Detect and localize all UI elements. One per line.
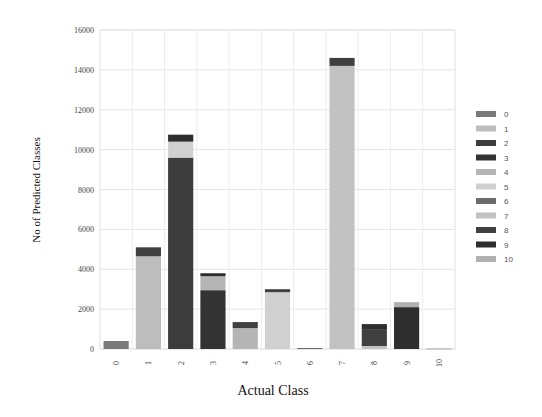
bar-segment xyxy=(297,348,322,349)
y-tick-label: 2000 xyxy=(78,305,94,314)
y-axis-label: No of Predicted Classes xyxy=(30,137,42,242)
bar-segment xyxy=(265,289,290,292)
legend-item: 2 xyxy=(476,139,509,148)
legend-label: 8 xyxy=(504,226,509,235)
bar-segment xyxy=(200,290,225,349)
legend-swatch xyxy=(476,169,496,175)
legend-label: 3 xyxy=(504,154,509,163)
bar-stack-3 xyxy=(200,273,225,349)
legend-item: 1 xyxy=(476,125,509,134)
legend-swatch xyxy=(476,140,496,146)
x-tick-label: 8 xyxy=(370,361,379,365)
legend-label: 9 xyxy=(504,241,509,250)
bar-segment xyxy=(136,256,161,349)
bar-stack-8 xyxy=(362,324,387,349)
bar-segment xyxy=(104,341,129,349)
bar-segment xyxy=(362,324,387,329)
x-tick-label: 0 xyxy=(112,361,121,365)
legend-label: 7 xyxy=(504,212,509,221)
legend-swatch xyxy=(476,242,496,248)
x-tick-label: 10 xyxy=(435,359,444,367)
bar-segment xyxy=(265,292,290,349)
bar-segment xyxy=(200,276,225,290)
y-tick-label: 4000 xyxy=(78,265,94,274)
legend-label: 6 xyxy=(504,197,509,206)
legend-item: 5 xyxy=(476,183,509,192)
y-tick-label: 10000 xyxy=(74,146,94,155)
stacked-bar-chart: 0200040006000800010000120001400016000 01… xyxy=(0,0,542,417)
bar-stack-0 xyxy=(104,341,129,349)
y-tick-label: 12000 xyxy=(74,106,94,115)
legend-swatch xyxy=(476,256,496,262)
legend-swatch xyxy=(476,198,496,204)
x-axis-ticks: 012345678910 xyxy=(112,359,444,367)
legend-swatch xyxy=(476,111,496,117)
bar-segment xyxy=(168,135,193,142)
y-tick-label: 6000 xyxy=(78,225,94,234)
bar-segment xyxy=(233,322,258,328)
x-tick-label: 7 xyxy=(338,361,347,365)
x-tick-label: 5 xyxy=(274,361,283,365)
legend: 012345678910 xyxy=(476,110,513,264)
bar-segment xyxy=(168,142,193,158)
bar-stack-10 xyxy=(426,348,451,349)
bar-segment xyxy=(136,247,161,256)
x-tick-label: 1 xyxy=(144,361,153,365)
legend-swatch xyxy=(476,126,496,132)
bar-stack-5 xyxy=(265,289,290,349)
legend-item: 8 xyxy=(476,226,509,235)
x-tick-label: 2 xyxy=(177,361,186,365)
y-tick-label: 8000 xyxy=(78,186,94,195)
x-tick-label: 9 xyxy=(403,361,412,365)
x-tick-label: 6 xyxy=(306,361,315,365)
bar-stack-7 xyxy=(329,58,354,349)
legend-label: 2 xyxy=(504,139,509,148)
bar-segment xyxy=(200,273,225,276)
x-tick-label: 4 xyxy=(241,361,250,365)
bar-stack-2 xyxy=(168,135,193,349)
bar-stack-1 xyxy=(136,247,161,349)
legend-item: 7 xyxy=(476,212,509,221)
legend-item: 6 xyxy=(476,197,509,206)
legend-label: 10 xyxy=(504,255,513,264)
bar-segment xyxy=(426,348,451,349)
legend-item: 9 xyxy=(476,241,509,250)
bar-segment xyxy=(329,66,354,349)
legend-swatch xyxy=(476,227,496,233)
x-tick-label: 3 xyxy=(209,361,218,365)
bar-segment xyxy=(394,302,419,307)
legend-item: 3 xyxy=(476,154,509,163)
bar-stack-9 xyxy=(394,302,419,349)
y-tick-label: 0 xyxy=(90,345,94,354)
bar-stack-4 xyxy=(233,322,258,349)
y-tick-label: 14000 xyxy=(74,66,94,75)
legend-item: 4 xyxy=(476,168,509,177)
legend-label: 5 xyxy=(504,183,509,192)
bar-segment xyxy=(168,158,193,349)
legend-item: 10 xyxy=(476,255,513,264)
y-tick-label: 16000 xyxy=(74,26,94,35)
legend-label: 0 xyxy=(504,110,509,119)
bar-segment xyxy=(362,346,387,349)
y-axis-ticks: 0200040006000800010000120001400016000 xyxy=(74,26,94,354)
bar-stack-6 xyxy=(297,348,322,349)
x-axis-label: Actual Class xyxy=(237,383,308,398)
bar-segment xyxy=(362,329,387,346)
legend-label: 4 xyxy=(504,168,509,177)
bar-segment xyxy=(233,328,258,349)
bar-segment xyxy=(394,307,419,349)
legend-swatch xyxy=(476,213,496,219)
bar-segment xyxy=(329,58,354,66)
legend-label: 1 xyxy=(504,125,509,134)
legend-swatch xyxy=(476,155,496,161)
legend-swatch xyxy=(476,184,496,190)
legend-item: 0 xyxy=(476,110,509,119)
